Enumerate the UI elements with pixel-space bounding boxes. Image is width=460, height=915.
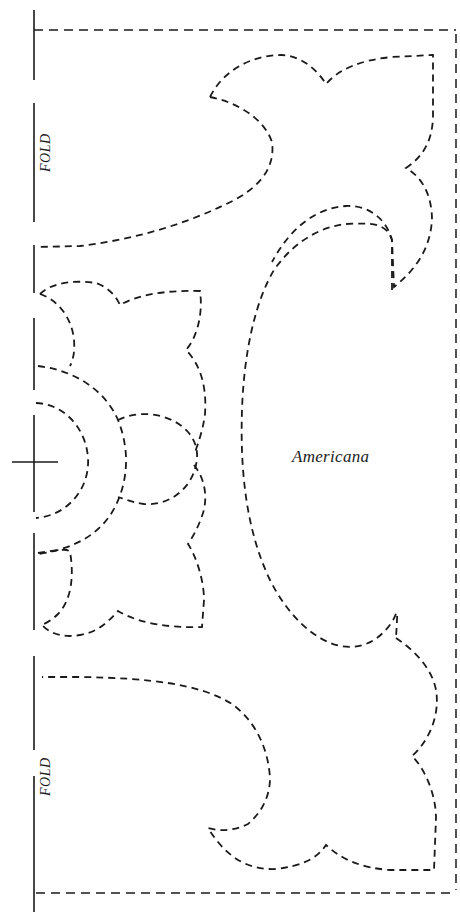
pattern-title: Americana bbox=[292, 447, 369, 467]
top-corner-scroll bbox=[210, 55, 433, 287]
flower-side-petal bbox=[118, 414, 197, 504]
fold-label-top: FOLD bbox=[38, 133, 54, 172]
flower-inner-arc bbox=[36, 403, 88, 518]
fold-label-bottom: FOLD bbox=[38, 757, 54, 796]
quilting-template bbox=[0, 0, 460, 915]
flower-top-petals bbox=[40, 282, 205, 455]
top-curved-leaf bbox=[38, 97, 272, 247]
outer-border bbox=[34, 30, 456, 893]
flower-top-inner-petal bbox=[40, 294, 74, 366]
flower-bottom-inner-petal bbox=[38, 550, 72, 625]
flower-outer-arc bbox=[38, 366, 126, 554]
bottom-corner-scroll bbox=[42, 638, 437, 870]
central-crescent-swag bbox=[242, 224, 398, 647]
